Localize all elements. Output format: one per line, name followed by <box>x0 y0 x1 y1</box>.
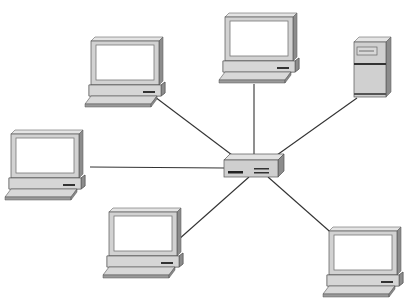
network-hub-icon <box>224 154 284 177</box>
network-diagram <box>0 0 410 308</box>
desktop-computer-icon <box>85 37 165 107</box>
server-tower-icon <box>354 37 391 97</box>
link-pc-left <box>90 167 224 168</box>
link-pc-top-left <box>155 97 232 155</box>
desktop-computer-icon <box>219 13 299 83</box>
desktop-computer-icon <box>5 130 85 200</box>
link-pc-bottom-right <box>268 177 336 237</box>
desktop-computer-icon <box>323 227 403 297</box>
link-server-top-right <box>277 98 357 155</box>
link-pc-bottom-left <box>178 177 249 240</box>
desktop-computer-icon <box>103 208 183 278</box>
